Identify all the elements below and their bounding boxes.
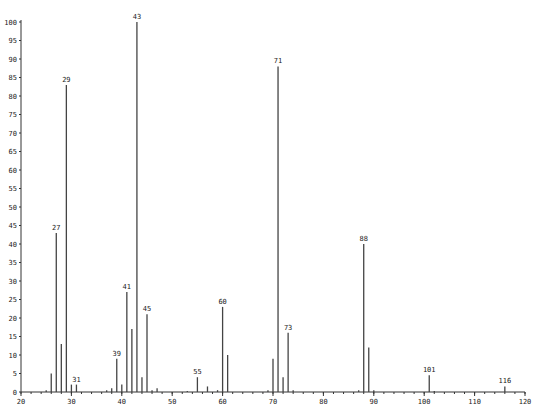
x-tick-label: 110 [468,398,481,406]
mass-spectrum-chart: 0510152025303540455055606570758085909510… [0,0,545,415]
y-tick-label: 45 [9,222,17,230]
peak-labels: 272931394143455560717388101116 [52,13,511,385]
y-tick-label: 25 [9,296,17,304]
peak-label: 71 [274,57,282,65]
y-tick-label: 0 [13,389,17,397]
y-axis: 0510152025303540455055606570758085909510… [4,19,21,397]
y-tick-label: 85 [9,74,17,82]
peak-label: 39 [113,350,121,358]
peak-label: 29 [62,76,70,84]
y-tick-label: 95 [9,37,17,45]
y-tick-label: 60 [9,167,17,175]
x-tick-label: 50 [168,398,176,406]
y-tick-label: 5 [13,370,17,378]
peak-label: 43 [133,13,141,21]
peak-label: 31 [72,376,80,384]
y-tick-label: 75 [9,111,17,119]
y-tick-label: 100 [4,19,17,27]
x-tick-label: 40 [118,398,126,406]
peak-label: 116 [499,377,512,385]
x-tick-label: 70 [269,398,277,406]
peak-label: 27 [52,224,60,232]
y-tick-label: 55 [9,185,17,193]
y-tick-label: 30 [9,278,17,286]
x-tick-label: 120 [519,398,532,406]
peak-label: 101 [423,366,436,374]
y-tick-label: 90 [9,56,17,64]
y-tick-label: 80 [9,93,17,101]
peak-label: 41 [123,283,131,291]
y-tick-label: 20 [9,315,17,323]
x-tick-label: 100 [418,398,431,406]
peaks [46,22,505,392]
y-tick-label: 40 [9,241,17,249]
y-tick-label: 50 [9,204,17,212]
x-tick-label: 30 [67,398,75,406]
x-axis: 2030405060708090100110120 [17,392,532,406]
peak-label: 88 [360,235,368,243]
peak-label: 73 [284,324,292,332]
y-tick-label: 15 [9,333,17,341]
y-tick-label: 10 [9,352,17,360]
x-tick-label: 60 [218,398,226,406]
y-tick-label: 65 [9,148,17,156]
peak-label: 45 [143,305,151,313]
peak-label: 55 [193,368,201,376]
x-tick-label: 20 [17,398,25,406]
x-tick-label: 80 [319,398,327,406]
x-tick-label: 90 [370,398,378,406]
y-tick-label: 70 [9,130,17,138]
peak-label: 60 [218,298,226,306]
y-tick-label: 35 [9,259,17,267]
